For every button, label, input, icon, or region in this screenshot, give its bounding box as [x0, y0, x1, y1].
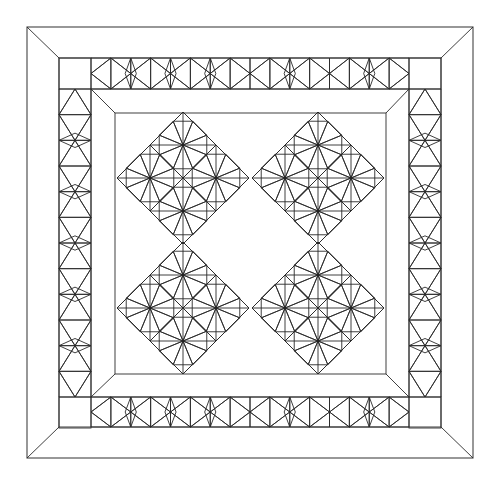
seam-dot [215, 307, 217, 309]
seam-dot [350, 307, 352, 309]
seam-dot [182, 210, 184, 212]
quilt-illustration [0, 0, 498, 484]
seam-dot [284, 177, 286, 179]
seam-dot [149, 177, 151, 179]
seam-dot [317, 144, 319, 146]
seam-dot [182, 340, 184, 342]
seam-dot [284, 307, 286, 309]
seam-dot [317, 274, 319, 276]
seam-dot [317, 210, 319, 212]
seam-dot [182, 274, 184, 276]
seam-dot [149, 307, 151, 309]
seam-dot [182, 144, 184, 146]
seam-dot [350, 177, 352, 179]
seam-dot [317, 340, 319, 342]
seam-dot [215, 177, 217, 179]
